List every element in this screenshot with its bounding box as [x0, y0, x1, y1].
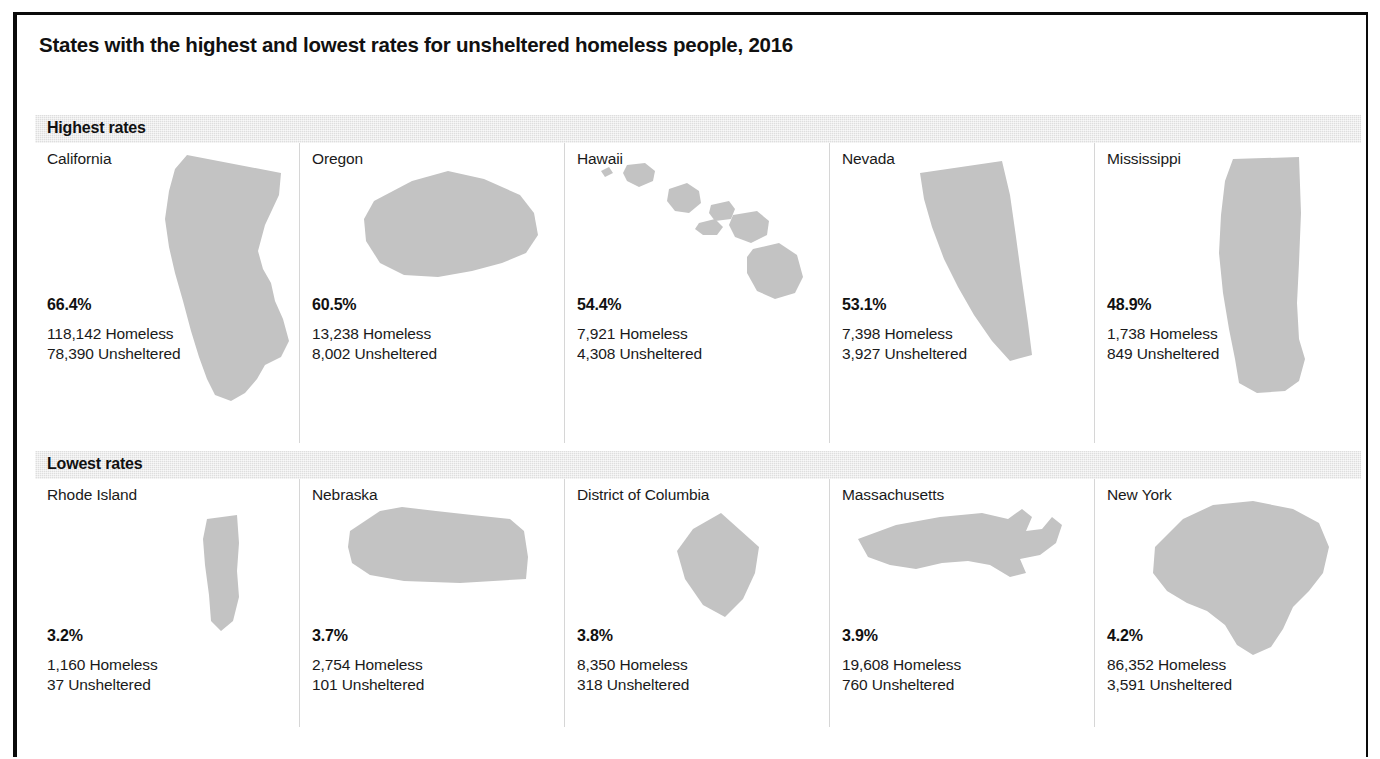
band-lowest-rates-label: Lowest rates — [47, 455, 142, 473]
unsheltered-rate-percent: 60.5% — [312, 296, 437, 314]
state-name-label: Nebraska — [312, 486, 564, 504]
state-cell-nevada[interactable]: Nevada 53.1% 7,398 Homeless 3,927 Unshel… — [830, 143, 1095, 443]
california-map-shape — [153, 151, 300, 411]
state-cell-mississippi[interactable]: Mississippi 48.9% 1,738 Homeless 849 Uns… — [1095, 143, 1360, 443]
state-stats: 3.2% 1,160 Homeless 37 Unsheltered — [47, 627, 158, 694]
state-name-label: New York — [1107, 486, 1360, 504]
unsheltered-count: 849 Unsheltered — [1107, 344, 1219, 364]
homeless-count: 8,350 Homeless — [577, 655, 689, 675]
unsheltered-count: 8,002 Unsheltered — [312, 344, 437, 364]
state-stats: 48.9% 1,738 Homeless 849 Unsheltered — [1107, 296, 1219, 363]
homeless-count: 1,738 Homeless — [1107, 324, 1219, 344]
unsheltered-rate-percent: 3.7% — [312, 627, 424, 645]
state-cell-california[interactable]: California 66.4% 118,142 Homeless 78,390… — [35, 143, 300, 443]
unsheltered-rate-percent: 66.4% — [47, 296, 181, 314]
homeless-count: 13,238 Homeless — [312, 324, 437, 344]
unsheltered-rate-percent: 54.4% — [577, 296, 702, 314]
state-name-label: Mississippi — [1107, 150, 1360, 168]
district-of-columbia-map-shape — [663, 507, 783, 637]
state-name-label: Massachusetts — [842, 486, 1094, 504]
band-lowest-rates: Lowest rates — [35, 451, 1361, 479]
state-cell-oregon[interactable]: Oregon 60.5% 13,238 Homeless 8,002 Unshe… — [300, 143, 565, 443]
state-cell-nebraska[interactable]: Nebraska 3.7% 2,754 Homeless 101 Unshelt… — [300, 479, 565, 727]
state-stats: 66.4% 118,142 Homeless 78,390 Unsheltere… — [47, 296, 181, 363]
state-name-label: District of Columbia — [577, 486, 829, 504]
state-cell-new-york[interactable]: New York 4.2% 86,352 Homeless 3,591 Unsh… — [1095, 479, 1360, 727]
state-name-label: California — [47, 150, 299, 168]
mississippi-map-shape — [1195, 153, 1325, 423]
unsheltered-rate-percent: 53.1% — [842, 296, 967, 314]
nebraska-map-shape — [340, 501, 540, 611]
state-name-label: Hawaii — [577, 150, 829, 168]
infographic-frame: States with the highest and lowest rates… — [13, 12, 1368, 757]
unsheltered-count: 318 Unsheltered — [577, 675, 689, 695]
band-highest-rates: Highest rates — [35, 115, 1361, 143]
state-stats: 53.1% 7,398 Homeless 3,927 Unsheltered — [842, 296, 967, 363]
massachusetts-map-shape — [850, 503, 1080, 623]
state-cell-massachusetts[interactable]: Massachusetts 3.9% 19,608 Homeless 760 U… — [830, 479, 1095, 727]
unsheltered-count: 101 Unsheltered — [312, 675, 424, 695]
state-cells-lowest: Rhode Island 3.2% 1,160 Homeless 37 Unsh… — [35, 479, 1365, 727]
state-stats: 3.9% 19,608 Homeless 760 Unsheltered — [842, 627, 961, 694]
unsheltered-count: 760 Unsheltered — [842, 675, 961, 695]
state-stats: 3.7% 2,754 Homeless 101 Unsheltered — [312, 627, 424, 694]
unsheltered-count: 78,390 Unsheltered — [47, 344, 181, 364]
state-cell-district-of-columbia[interactable]: District of Columbia 3.8% 8,350 Homeless… — [565, 479, 830, 727]
unsheltered-rate-percent: 48.9% — [1107, 296, 1219, 314]
section-lowest-rates: Lowest rates Rhode Island 3.2% 1,160 Hom… — [35, 451, 1365, 727]
unsheltered-rate-percent: 4.2% — [1107, 627, 1232, 645]
unsheltered-rate-percent: 3.8% — [577, 627, 689, 645]
rhode-island-map-shape — [193, 509, 263, 649]
state-cells-highest: California 66.4% 118,142 Homeless 78,390… — [35, 143, 1365, 443]
homeless-count: 118,142 Homeless — [47, 324, 181, 344]
oregon-map-shape — [352, 157, 552, 317]
homeless-count: 7,398 Homeless — [842, 324, 967, 344]
page-title: States with the highest and lowest rates… — [39, 33, 793, 57]
state-name-label: Nevada — [842, 150, 1094, 168]
unsheltered-count: 3,927 Unsheltered — [842, 344, 967, 364]
band-highest-rates-label: Highest rates — [47, 119, 146, 137]
homeless-count: 2,754 Homeless — [312, 655, 424, 675]
unsheltered-count: 4,308 Unsheltered — [577, 344, 702, 364]
homeless-count: 86,352 Homeless — [1107, 655, 1232, 675]
unsheltered-rate-percent: 3.9% — [842, 627, 961, 645]
state-stats: 3.8% 8,350 Homeless 318 Unsheltered — [577, 627, 689, 694]
unsheltered-count: 37 Unsheltered — [47, 675, 158, 695]
state-cell-hawaii[interactable]: Hawaii 54.4% 7,921 Homeless 4, — [565, 143, 830, 443]
hawaii-map-shape — [583, 153, 813, 303]
unsheltered-rate-percent: 3.2% — [47, 627, 158, 645]
state-stats: 60.5% 13,238 Homeless 8,002 Unsheltered — [312, 296, 437, 363]
state-stats: 4.2% 86,352 Homeless 3,591 Unsheltered — [1107, 627, 1232, 694]
unsheltered-count: 3,591 Unsheltered — [1107, 675, 1232, 695]
homeless-count: 1,160 Homeless — [47, 655, 158, 675]
state-name-label: Oregon — [312, 150, 564, 168]
state-cell-rhode-island[interactable]: Rhode Island 3.2% 1,160 Homeless 37 Unsh… — [35, 479, 300, 727]
state-name-label: Rhode Island — [47, 486, 299, 504]
section-highest-rates: Highest rates California 66.4% 118,142 H… — [35, 115, 1365, 443]
homeless-count: 19,608 Homeless — [842, 655, 961, 675]
state-stats: 54.4% 7,921 Homeless 4,308 Unsheltered — [577, 296, 702, 363]
homeless-count: 7,921 Homeless — [577, 324, 702, 344]
